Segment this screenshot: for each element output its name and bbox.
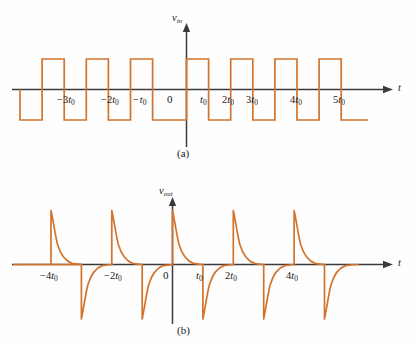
y-axis-label-a: vin xyxy=(172,13,182,25)
tick-label-b-zero: 0 xyxy=(163,270,169,281)
panel-b-output-waveform: vout t −4t0 −2t0 0 t0 2t0 4t0 (b) xyxy=(0,172,418,345)
tick-label-b-t0: t0 xyxy=(196,271,203,282)
y-axis-label-b-subscript: out xyxy=(164,190,173,198)
tick-label-a-3t0: 3t0 xyxy=(246,95,258,106)
tick-label-a-5t0: 5t0 xyxy=(333,95,345,106)
y-axis-label-a-subscript: in xyxy=(177,17,182,25)
caption-a: (a) xyxy=(177,148,189,159)
tick-label-a-t0: t0 xyxy=(200,95,207,106)
y-axis-arrow-a xyxy=(183,23,190,32)
y-axis-label-b: vout xyxy=(159,186,173,198)
tick-label-a-minust0: − t0 xyxy=(133,95,146,106)
tick-label-b-2t0: 2t0 xyxy=(225,271,237,282)
caption-b: (b) xyxy=(177,325,190,336)
figure-root: vin t −3t0 −2t0 − t0 0 t0 2t0 3t0 4t0 5t… xyxy=(0,0,418,345)
x-axis-arrow-b xyxy=(383,261,393,268)
tick-label-b-4t0: 4t0 xyxy=(286,271,298,282)
tick-label-a-minus2t0: −2t0 xyxy=(101,95,119,106)
y-axis-arrow-b xyxy=(169,197,176,206)
tick-label-b-minus4t0: −4t0 xyxy=(40,271,58,282)
x-axis-a xyxy=(12,86,393,93)
panel-a-input-waveform: vin t −3t0 −2t0 − t0 0 t0 2t0 3t0 4t0 5t… xyxy=(0,0,418,172)
panel-b-plot xyxy=(0,172,418,345)
tick-label-b-minus2t0: −2t0 xyxy=(104,271,122,282)
tick-label-a-minus3t0: −3t0 xyxy=(57,95,75,106)
tick-label-a-2t0: 2t0 xyxy=(222,95,234,106)
x-axis-label-b: t xyxy=(398,258,401,269)
tick-label-a-zero: 0 xyxy=(167,94,173,105)
tick-label-a-4t0: 4t0 xyxy=(290,95,302,106)
x-axis-label-a: t xyxy=(398,83,401,94)
x-axis-arrow-a xyxy=(383,86,393,93)
panel-a-plot xyxy=(0,0,418,172)
